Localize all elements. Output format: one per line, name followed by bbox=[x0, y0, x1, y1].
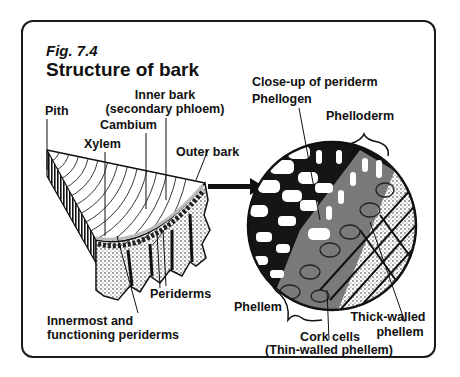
label-phellem: Phellem bbox=[234, 300, 282, 314]
label-cork-cells-line2: (Thin-walled phellem) bbox=[262, 343, 396, 357]
label-xylem: Xylem bbox=[84, 137, 121, 151]
label-thick-walled-line1: Thick-walled bbox=[338, 310, 438, 324]
label-inner-bark-line2: (secondary phloem) bbox=[100, 102, 230, 116]
label-innermost-line2: functioning periderms bbox=[47, 328, 179, 342]
label-phellogen: Phellogen bbox=[252, 92, 312, 106]
label-pith: Pith bbox=[45, 104, 69, 118]
label-cork-cells-line1: Cork cells bbox=[290, 330, 370, 344]
outer-bark-front bbox=[96, 183, 210, 300]
label-closeup-heading: Close-up of periderm bbox=[252, 75, 378, 89]
label-innermost-line1: Innermost and bbox=[47, 314, 133, 328]
label-inner-bark-line1: Inner bark bbox=[100, 88, 230, 102]
wedge-side-face bbox=[47, 150, 96, 263]
label-outer-bark: Outer bark bbox=[176, 145, 239, 159]
label-phelloderm: Phelloderm bbox=[326, 109, 394, 123]
label-cambium: Cambium bbox=[100, 118, 157, 132]
label-periderms: Periderms bbox=[150, 287, 211, 301]
